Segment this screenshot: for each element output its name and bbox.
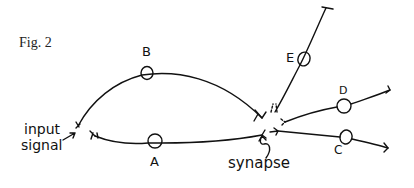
dendrite-d	[281, 119, 285, 125]
terminal-a-start	[90, 131, 98, 139]
terminal-d-end	[386, 86, 390, 93]
synapse-label: synapse	[228, 156, 290, 171]
node-e-soma	[296, 50, 312, 67]
node-c-label: C	[334, 144, 342, 156]
axon-path-c	[278, 131, 388, 148]
node-a-label: A	[150, 155, 159, 168]
input-arrow	[63, 133, 75, 140]
axon-path-b	[78, 74, 262, 126]
node-a-soma	[148, 134, 162, 148]
node-b-soma	[141, 67, 153, 80]
dendrite-c	[270, 128, 278, 135]
node-d-label: D	[339, 85, 347, 96]
diagram-canvas	[0, 0, 414, 188]
input-label-line1: input	[24, 122, 60, 136]
neuron-diagram: Fig. 2	[0, 0, 414, 188]
input-label-line2: signal	[21, 138, 62, 152]
node-e-label: E	[286, 51, 294, 64]
node-b-label: B	[142, 45, 151, 58]
axon-path-a	[95, 135, 262, 144]
axon-path-e	[275, 8, 326, 112]
node-d-soma	[337, 99, 351, 113]
terminal-b-end	[254, 110, 266, 121]
terminal-e-end	[322, 7, 333, 9]
